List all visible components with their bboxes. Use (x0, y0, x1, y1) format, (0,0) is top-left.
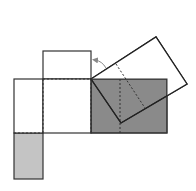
left-rectangle (14, 79, 43, 133)
net-diagram (0, 0, 196, 191)
center-square (43, 79, 91, 133)
top-square (43, 51, 91, 79)
fold-arrow-icon (95, 60, 106, 68)
dark-rectangle (91, 79, 167, 133)
bottom-grey-rectangle (14, 133, 43, 179)
